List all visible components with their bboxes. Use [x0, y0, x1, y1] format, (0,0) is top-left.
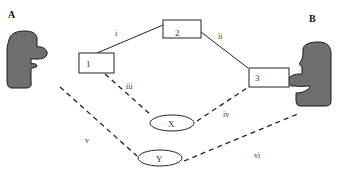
node-box-2: 2: [163, 20, 201, 38]
protein-b-shape: [288, 42, 331, 106]
edge-ii: [201, 32, 248, 68]
molecule-a: A: [7, 9, 47, 88]
edge-vi: [184, 113, 300, 161]
node-box-3-label: 3: [255, 73, 260, 83]
molecule-a-label: A: [8, 9, 16, 20]
edge-iii: [105, 74, 151, 115]
edge-v-label: v: [85, 136, 89, 145]
molecule-b: B: [288, 13, 331, 106]
node-box-2-label: 2: [175, 28, 180, 38]
node-ellipse-y: Y: [138, 150, 182, 166]
edge-i: [97, 25, 163, 53]
pathway-diagram: A B 1 2 3 X Y i ii iii iv v vi: [0, 0, 339, 173]
node-ellipse-x-label: X: [168, 119, 175, 129]
node-box-1-label: 1: [86, 59, 91, 69]
edge-iii-label: iii: [126, 82, 133, 91]
node-box-3: 3: [249, 68, 289, 87]
edge-iv-label: iv: [223, 110, 229, 119]
edge-ii-label: ii: [218, 32, 223, 41]
molecule-b-label: B: [309, 13, 316, 24]
protein-a-shape: [7, 31, 47, 88]
edge-vi-label: vi: [254, 151, 261, 160]
edge-i-label: i: [115, 29, 118, 38]
node-ellipse-y-label: Y: [156, 154, 163, 164]
node-box-1: 1: [79, 53, 114, 73]
node-ellipse-x: X: [150, 115, 194, 131]
edge-v: [60, 87, 137, 156]
